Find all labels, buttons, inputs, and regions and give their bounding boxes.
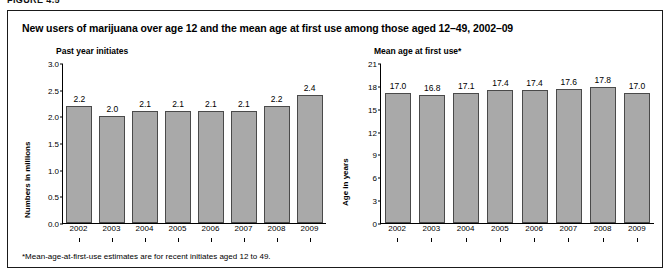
x-tick-mark bbox=[244, 238, 245, 242]
x-tick-mark bbox=[79, 238, 80, 242]
y-tick-mark-left bbox=[60, 170, 63, 171]
bar-item[interactable]: 17.6 bbox=[552, 64, 586, 223]
x-tick-mark bbox=[568, 238, 569, 242]
x-tick-mark bbox=[277, 238, 278, 242]
bar[interactable] bbox=[264, 106, 290, 223]
y-tick-mark-right bbox=[378, 132, 381, 133]
x-tick-label: 2005 bbox=[161, 224, 194, 238]
bar-value-label: 2.2 bbox=[74, 94, 86, 104]
bar[interactable] bbox=[522, 90, 548, 223]
bar-item[interactable]: 2.0 bbox=[96, 64, 129, 223]
bar-item[interactable]: 16.8 bbox=[415, 64, 449, 223]
bar-item[interactable]: 2.2 bbox=[63, 64, 96, 223]
x-tick-label: 2003 bbox=[414, 224, 448, 238]
bar[interactable] bbox=[297, 95, 323, 223]
x-tick-mark bbox=[310, 238, 311, 242]
x-tick-mark bbox=[211, 238, 212, 242]
bar[interactable] bbox=[590, 87, 616, 223]
x-tick-mark bbox=[397, 238, 398, 242]
bar-item[interactable]: 17.0 bbox=[381, 64, 415, 223]
bar[interactable] bbox=[487, 90, 513, 223]
y-tick-mark-left bbox=[60, 117, 63, 118]
y-tick-mark-right bbox=[378, 178, 381, 179]
x-tick-label: 2009 bbox=[620, 224, 654, 238]
y-axis-title-right: Age in years bbox=[341, 158, 350, 206]
figure-title: New users of marijuana over age 12 and t… bbox=[22, 22, 513, 34]
y-tick-mark-left bbox=[60, 144, 63, 145]
y-tick-mark-right bbox=[378, 109, 381, 110]
x-tick-mark bbox=[178, 238, 179, 242]
x-axis-ticks-left: 20022003200420052006200720082009 bbox=[62, 224, 326, 238]
bar-value-label: 17.0 bbox=[390, 81, 407, 91]
bar[interactable] bbox=[66, 106, 92, 223]
chart-panel-mean-age-first-use: Mean age at first use* Age in years 17.0… bbox=[340, 46, 660, 246]
x-tick-label: 2006 bbox=[194, 224, 227, 238]
x-tick-label: 2008 bbox=[260, 224, 293, 238]
bar-item[interactable]: 2.1 bbox=[129, 64, 162, 223]
bar-item[interactable]: 17.8 bbox=[586, 64, 620, 223]
bar[interactable] bbox=[385, 93, 411, 223]
bar-value-label: 17.1 bbox=[458, 81, 475, 91]
bar-value-label: 2.1 bbox=[172, 99, 184, 109]
bar-value-label: 16.8 bbox=[424, 83, 441, 93]
bar-item[interactable]: 2.2 bbox=[260, 64, 293, 223]
x-tick-mark bbox=[637, 238, 638, 242]
x-axis-ticks-right: 20022003200420052006200720082009 bbox=[380, 224, 654, 238]
bar[interactable] bbox=[99, 116, 125, 223]
x-tick-mark bbox=[112, 238, 113, 242]
bar-value-label: 2.1 bbox=[238, 99, 250, 109]
bar-item[interactable]: 17.4 bbox=[518, 64, 552, 223]
x-tick-label: 2004 bbox=[449, 224, 483, 238]
bar[interactable] bbox=[453, 93, 479, 223]
figure-label: FIGURE 4.5 bbox=[7, 0, 60, 5]
y-axis-title-left: Numbers in millions bbox=[23, 142, 32, 218]
y-tick-mark-right bbox=[378, 64, 381, 65]
bar-value-label: 2.1 bbox=[205, 99, 217, 109]
x-tick-label: 2007 bbox=[227, 224, 260, 238]
figure-footnote: *Mean-age-at-first-use estimates are for… bbox=[22, 252, 271, 261]
figure-container: FIGURE 4.5 New users of marijuana over a… bbox=[0, 0, 672, 273]
bar[interactable] bbox=[198, 111, 224, 223]
x-tick-mark bbox=[145, 238, 146, 242]
x-tick-label: 2003 bbox=[95, 224, 128, 238]
bar-value-label: 2.0 bbox=[106, 104, 118, 114]
y-tick-mark-right bbox=[378, 155, 381, 156]
y-tick-mark-left bbox=[60, 197, 63, 198]
bar-value-label: 17.4 bbox=[492, 78, 509, 88]
bar-item[interactable]: 17.0 bbox=[620, 64, 654, 223]
y-tick-mark-right bbox=[378, 86, 381, 87]
x-tick-mark bbox=[466, 238, 467, 242]
bar-value-label: 2.4 bbox=[304, 83, 316, 93]
bar-item[interactable]: 2.1 bbox=[227, 64, 260, 223]
chart-panel-past-year-initiates: Past year initiates Numbers in millions … bbox=[22, 46, 332, 246]
x-tick-mark bbox=[534, 238, 535, 242]
bar[interactable] bbox=[419, 95, 445, 223]
bar[interactable] bbox=[132, 111, 158, 223]
bar-item[interactable]: 2.1 bbox=[195, 64, 228, 223]
panel-title-left: Past year initiates bbox=[56, 46, 128, 56]
bar[interactable] bbox=[556, 89, 582, 223]
bar-item[interactable]: 17.1 bbox=[449, 64, 483, 223]
y-tick-mark-right bbox=[378, 201, 381, 202]
bar-item[interactable]: 17.4 bbox=[483, 64, 517, 223]
x-tick-mark bbox=[603, 238, 604, 242]
bar[interactable] bbox=[231, 111, 257, 223]
x-tick-label: 2006 bbox=[517, 224, 551, 238]
bar-item[interactable]: 2.4 bbox=[293, 64, 326, 223]
bar-value-label: 17.8 bbox=[595, 75, 612, 85]
x-tick-label: 2008 bbox=[586, 224, 620, 238]
bar[interactable] bbox=[624, 93, 650, 223]
bar-value-label: 2.2 bbox=[271, 94, 283, 104]
y-tick-mark-left bbox=[60, 64, 63, 65]
bar-group-left: 2.22.02.12.12.12.12.22.4 bbox=[63, 64, 326, 223]
bar-value-label: 17.4 bbox=[526, 78, 543, 88]
x-tick-mark bbox=[431, 238, 432, 242]
x-tick-label: 2002 bbox=[62, 224, 95, 238]
x-tick-label: 2009 bbox=[293, 224, 326, 238]
bar-value-label: 2.1 bbox=[139, 99, 151, 109]
y-tick-mark-left bbox=[60, 90, 63, 91]
x-tick-label: 2007 bbox=[551, 224, 585, 238]
bar[interactable] bbox=[165, 111, 191, 223]
bar-item[interactable]: 2.1 bbox=[162, 64, 195, 223]
x-tick-label: 2002 bbox=[380, 224, 414, 238]
